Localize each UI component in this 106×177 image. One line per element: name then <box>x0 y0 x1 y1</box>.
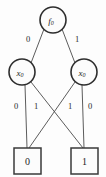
edge-left-low <box>25 85 27 148</box>
terminal-one-label: 1 <box>82 156 87 167</box>
edge-left-high <box>31 82 83 148</box>
edge-right-low <box>82 85 84 148</box>
bdd-canvas: 0 1 f0 x0 x0 0 1 0 1 1 0 <box>0 0 106 177</box>
right-var-node-subscript: 0 <box>83 72 86 78</box>
edge-group <box>25 29 84 148</box>
terminal-group: 0 1 <box>14 148 98 174</box>
terminal-zero-label: 0 <box>25 156 30 167</box>
edge-label-right-low: 0 <box>88 101 92 111</box>
edge-label-left-low: 0 <box>14 101 18 111</box>
edge-label-root-to-right: 1 <box>75 34 79 44</box>
node-group: f0 x0 x0 <box>9 7 97 85</box>
left-var-node-subscript: 0 <box>21 72 24 78</box>
edge-root-to-right <box>62 29 75 63</box>
edge-label-root-to-left: 0 <box>26 34 30 44</box>
edge-label-left-high: 1 <box>34 101 38 111</box>
bdd-diagram: 0 1 f0 x0 x0 0 1 0 1 1 0 <box>0 0 106 177</box>
edge-label-right-high: 1 <box>68 101 72 111</box>
edge-root-to-left <box>31 29 44 63</box>
edge-right-high <box>29 82 75 148</box>
root-node-subscript: 0 <box>51 20 54 26</box>
